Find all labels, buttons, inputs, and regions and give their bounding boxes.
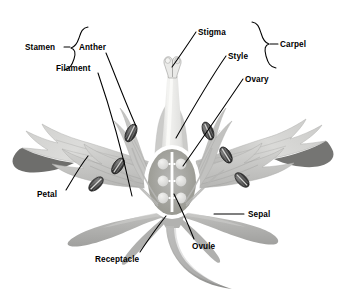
ovule (158, 159, 169, 170)
label-stigma: Stigma (198, 28, 226, 37)
carpel-brace (252, 22, 276, 68)
label-sepal: Sepal (248, 210, 270, 219)
label-ovule: Ovule (192, 242, 216, 251)
ovary (144, 145, 200, 219)
stigma (164, 57, 181, 78)
stigma-lobe-left (165, 58, 170, 64)
label-stamen: Stamen (25, 43, 55, 52)
flower-illustration: Stamen Anther Filament Stigma Carpel Sty… (0, 0, 343, 294)
label-anther: Anther (79, 43, 107, 52)
leader-anther (106, 53, 136, 126)
label-carpel: Carpel (280, 40, 306, 49)
ovary-septum (171, 152, 174, 212)
label-ovary: Ovary (245, 75, 269, 84)
label-receptacle: Receptacle (95, 255, 140, 264)
leader-stigma (172, 32, 196, 67)
flower-anatomy-diagram: Stamen Anther Filament Stigma Carpel Sty… (0, 0, 343, 294)
label-style: Style (228, 52, 248, 61)
ovule (158, 176, 169, 187)
ovule (176, 176, 187, 187)
label-filament: Filament (56, 64, 91, 73)
flower-body (13, 57, 334, 289)
label-petal: Petal (37, 190, 57, 199)
